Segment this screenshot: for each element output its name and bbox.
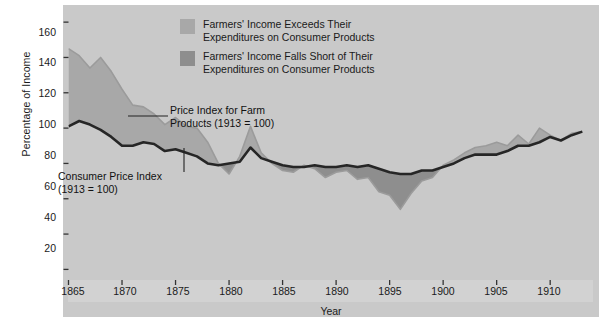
legend-item-falls-short: Farmers' Income Falls Short of Their Exp… (180, 50, 375, 75)
chart-figure: Percentage of Income 160 140 120 100 80 … (0, 0, 602, 327)
annotation-consumer-price-index: Consumer Price Index (1913 = 100) (58, 170, 162, 195)
chart-legend: Farmers' Income Exceeds Their Expenditur… (180, 18, 375, 82)
legend-swatch-falls-short (180, 51, 195, 66)
annotation-farm-price-index: Price Index for Farm Products (1913 = 10… (170, 104, 274, 129)
legend-label-falls-short: Farmers' Income Falls Short of Their Exp… (203, 50, 375, 75)
legend-swatch-exceeds (180, 19, 195, 34)
legend-item-exceeds: Farmers' Income Exceeds Their Expenditur… (180, 18, 375, 43)
legend-label-exceeds: Farmers' Income Exceeds Their Expenditur… (203, 18, 375, 43)
